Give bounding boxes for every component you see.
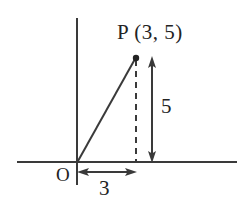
origin-label: O	[56, 165, 70, 184]
coordinate-diagram: P (3, 5) O 3 5	[0, 0, 241, 214]
segment-origin-to-point	[78, 59, 135, 161]
vertical-measure-label: 5	[161, 96, 172, 117]
horizontal-measure-label: 3	[99, 178, 110, 199]
point-coordinate-label: P (3, 5)	[117, 22, 183, 43]
point-p-marker	[133, 55, 139, 61]
